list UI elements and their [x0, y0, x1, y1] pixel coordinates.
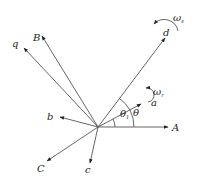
label-theta: θ	[133, 107, 139, 118]
label-c: c	[85, 164, 91, 175]
label-omega-r: ωr	[153, 86, 164, 98]
label-a: a	[151, 97, 157, 108]
label-A: A	[171, 122, 179, 133]
phasor-diagram: A B C a b c d q ωs ωr θ θ1	[0, 0, 197, 177]
label-omega-s: ωs	[173, 12, 184, 24]
label-q: q	[12, 38, 18, 49]
label-d: d	[163, 27, 169, 38]
vector-c	[90, 127, 98, 163]
label-B: B	[32, 32, 40, 43]
theta1-arc	[113, 119, 115, 127]
vector-q	[24, 48, 98, 127]
vector-C	[47, 127, 98, 161]
label-C: C	[37, 163, 45, 174]
label-theta1: θ1	[120, 108, 129, 120]
label-b: b	[47, 111, 53, 122]
